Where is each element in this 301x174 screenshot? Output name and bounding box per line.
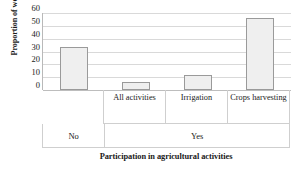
category-label-row: All activitiesIrrigationCrops harvesting [42,90,290,124]
category-cell: All activities [103,90,165,124]
group-cell: No [42,124,104,148]
plot-area [42,13,291,90]
group-label: No [68,131,78,141]
y-tick-label: 50 [18,16,40,25]
category-cell: Crops harvesting [227,90,290,124]
group-cell: Yes [104,124,290,148]
category-label: Irrigation [181,93,212,103]
bar-series [43,13,291,90]
group-label-row: NoYes [42,124,290,148]
category-label: All activities [113,93,156,103]
y-tick-label: 20 [18,55,40,64]
bar-chart: Proportion of women (%) 0102030405060 Al… [0,0,301,174]
category-label: Crops harvesting [230,93,286,103]
x-axis-title: Participation in agricultural activities [42,152,290,161]
y-tick-label: 10 [18,68,40,77]
y-axis-tick-labels: 0102030405060 [18,8,40,90]
bar [184,75,213,90]
category-cell: Irrigation [165,90,227,124]
bar [60,47,89,90]
bar [246,18,275,90]
y-tick-label: 40 [18,29,40,38]
y-tick-label: 0 [18,81,40,90]
y-tick-label: 60 [18,4,40,13]
y-tick-label: 30 [18,42,40,51]
category-cell-empty [42,90,103,124]
bar [122,82,151,90]
group-label: Yes [191,131,203,141]
